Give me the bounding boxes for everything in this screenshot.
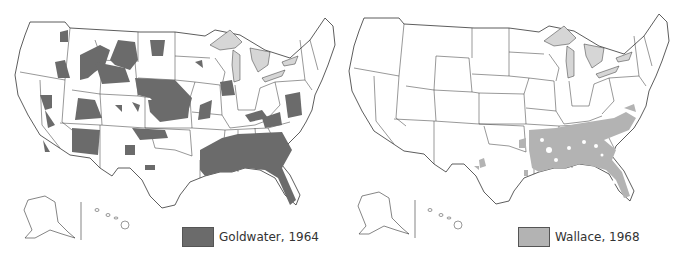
inset-alaska-hawaii bbox=[344, 0, 688, 261]
legend-wallace: Wallace, 1968 bbox=[518, 227, 640, 247]
legend-goldwater: Goldwater, 1964 bbox=[182, 227, 319, 247]
legend-label-goldwater: Goldwater, 1964 bbox=[219, 230, 319, 244]
legend-swatch-wallace bbox=[518, 227, 550, 247]
goldwater-1964-map: Goldwater, 1964 bbox=[0, 0, 344, 261]
hawaii-outline bbox=[95, 209, 129, 230]
alaska-outline bbox=[358, 192, 409, 234]
legend-label-wallace: Wallace, 1968 bbox=[555, 230, 640, 244]
wallace-1968-map: Wallace, 1968 bbox=[344, 0, 688, 261]
inset-alaska-hawaii bbox=[0, 0, 344, 261]
legend-swatch-goldwater bbox=[182, 227, 214, 247]
hawaii-outline bbox=[428, 209, 462, 230]
alaska-outline bbox=[24, 196, 75, 238]
